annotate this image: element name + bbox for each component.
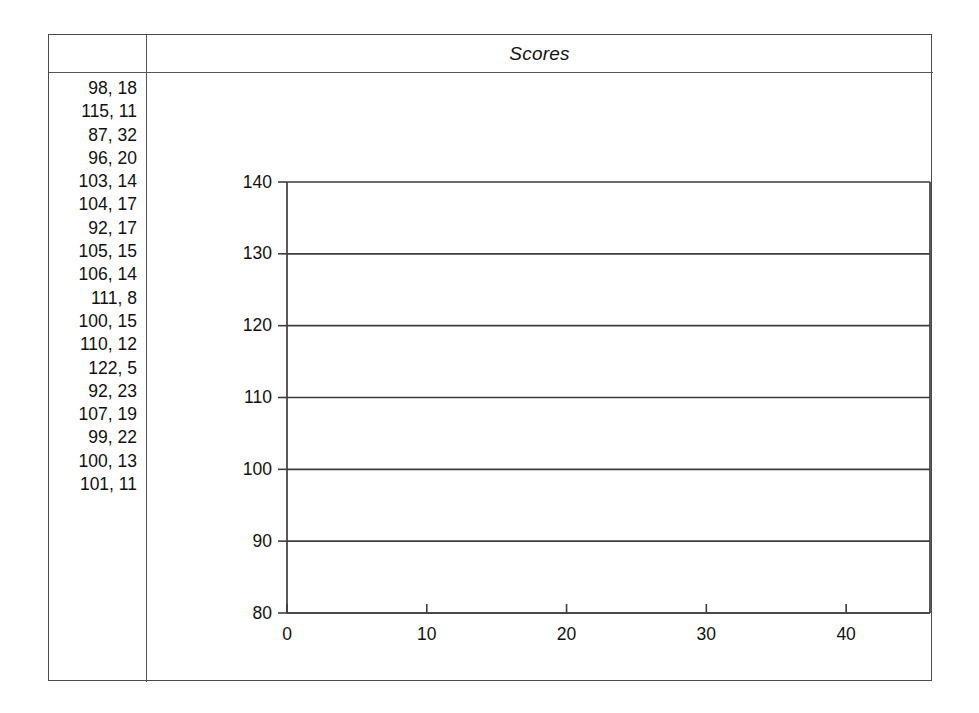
list-item: 92, 23 (49, 380, 146, 403)
column-divider (146, 35, 147, 682)
x-tick-label: 30 (697, 624, 717, 644)
list-item: 98, 18 (49, 77, 146, 100)
list-item: 105, 15 (49, 240, 146, 263)
list-item: 104, 17 (49, 193, 146, 216)
y-tick-label: 90 (253, 531, 273, 551)
list-item: 87, 32 (49, 124, 146, 147)
list-item: 99, 22 (49, 426, 146, 449)
list-item: 103, 14 (49, 170, 146, 193)
y-axis-ticks: 8090100110120130140 (243, 172, 287, 623)
x-tick-label: 40 (836, 624, 856, 644)
x-tick-label: 20 (557, 624, 577, 644)
list-item: 96, 20 (49, 147, 146, 170)
list-item: 107, 19 (49, 403, 146, 426)
scores-data-column: 98, 18115, 1187, 3296, 20103, 14104, 179… (49, 73, 146, 681)
y-tick-label: 100 (243, 459, 272, 479)
y-tick-label: 80 (253, 603, 273, 623)
y-tick-label: 130 (243, 243, 272, 263)
list-item: 92, 17 (49, 217, 146, 240)
y-tick-label: 110 (244, 387, 272, 407)
list-item: 100, 15 (49, 310, 146, 333)
x-tick-label: 10 (417, 624, 437, 644)
page-title: Scores (509, 43, 569, 65)
chart-gridlines (287, 182, 930, 613)
y-tick-label: 120 (243, 315, 272, 335)
scores-table-frame: Scores 98, 18115, 1187, 3296, 20103, 141… (48, 34, 932, 681)
list-item: 110, 12 (49, 333, 146, 356)
y-tick-label: 140 (243, 172, 272, 192)
title-cell: Scores (148, 35, 931, 72)
list-item: 122, 5 (49, 357, 146, 380)
list-item: 101, 11 (49, 473, 146, 496)
x-tick-label: 0 (282, 624, 292, 644)
list-item: 115, 11 (49, 100, 146, 123)
x-axis-ticks: 010203040 (282, 604, 856, 644)
list-item: 111, 8 (49, 287, 146, 310)
list-item: 100, 13 (49, 450, 146, 473)
list-item: 106, 14 (49, 263, 146, 286)
chart-plot-cell: 8090100110120130140 010203040 (148, 73, 931, 681)
scores-chart: 8090100110120130140 010203040 (148, 73, 931, 681)
